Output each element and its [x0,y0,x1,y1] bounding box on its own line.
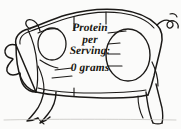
belly-line [38,88,146,93]
nutrition-overlay-text: Protein per Serving: 0 grams [58,23,122,75]
overlay-line-serving: Serving: [58,46,122,58]
shoulder-lower-line [40,60,58,68]
shoulder-top-line [38,29,58,33]
shoulder-front-cut [38,66,44,90]
baseline-rule [4,119,176,120]
pig-cut-chart-image: Protein per Serving: 0 grams [0,0,181,129]
belly-cut-2 [52,76,72,78]
overlay-line-grams: 0 grams [58,63,122,75]
curly-tail [157,14,178,28]
overlay-line-protein: Protein [58,23,122,35]
pig-head-outline [5,45,36,92]
